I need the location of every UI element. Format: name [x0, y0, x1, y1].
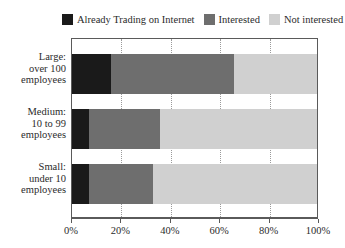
legend-item-not-interested: Not interested — [269, 14, 343, 25]
x-tick-80 — [269, 219, 270, 223]
x-tick-100 — [318, 219, 319, 223]
category-label-large-line1: Large: — [0, 51, 66, 63]
legend-item-already-trading: Already Trading on Internet — [62, 14, 195, 25]
legend-item-interested: Interested — [204, 14, 260, 25]
category-label-medium-line3: employees — [0, 129, 66, 141]
category-label-small: Small: under 10 employees — [0, 161, 66, 196]
x-tick-label-100: 100% — [298, 225, 338, 237]
x-tick-label-20: 20% — [100, 225, 140, 237]
category-label-medium-line2: 10 to 99 — [0, 118, 66, 130]
x-tick-20 — [120, 219, 121, 223]
x-tick-label-80: 80% — [249, 225, 289, 237]
category-label-large-line3: employees — [0, 74, 66, 86]
x-tick-60 — [219, 219, 220, 223]
stacked-bar-chart: Already Trading on Internet Interested N… — [0, 0, 345, 248]
category-label-large-line2: over 100 — [0, 63, 66, 75]
chart-legend: Already Trading on Internet Interested N… — [62, 11, 340, 27]
x-tick-0 — [71, 219, 72, 223]
legend-swatch-interested-icon — [204, 14, 215, 25]
bar-segment-medium-1 — [89, 109, 160, 149]
plot-area — [71, 38, 318, 218]
bar-segment-medium-0 — [72, 109, 89, 149]
category-label-small-line2: under 10 — [0, 173, 66, 185]
bar-segment-small-0 — [72, 164, 89, 204]
bar-segment-small-2 — [153, 164, 317, 204]
bar-segment-large-2 — [234, 54, 317, 94]
bar-segment-medium-2 — [160, 109, 317, 149]
legend-label-already-trading: Already Trading on Internet — [77, 14, 195, 25]
plot-inner — [72, 39, 317, 217]
legend-label-not-interested: Not interested — [284, 14, 343, 25]
legend-swatch-not-interested-icon — [269, 14, 280, 25]
x-tick-40 — [170, 219, 171, 223]
category-label-small-line3: employees — [0, 184, 66, 196]
x-tick-label-40: 40% — [150, 225, 190, 237]
bar-segment-large-1 — [111, 54, 234, 94]
bar-row-large — [72, 54, 317, 94]
bar-segment-small-1 — [89, 164, 153, 204]
x-tick-label-0: 0% — [51, 225, 91, 237]
x-tick-label-60: 60% — [199, 225, 239, 237]
category-label-large: Large: over 100 employees — [0, 51, 66, 86]
legend-swatch-already-trading-icon — [62, 14, 73, 25]
bar-row-medium — [72, 109, 317, 149]
bar-row-small — [72, 164, 317, 204]
category-label-medium: Medium: 10 to 99 employees — [0, 106, 66, 141]
legend-label-interested: Interested — [219, 14, 260, 25]
category-label-small-line1: Small: — [0, 161, 66, 173]
category-label-medium-line1: Medium: — [0, 106, 66, 118]
x-axis-line — [71, 218, 318, 219]
bar-segment-large-0 — [72, 54, 111, 94]
